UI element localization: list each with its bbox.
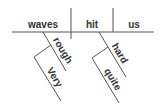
sentence-diagram: waves hit us rough Very hard quite <box>0 0 163 107</box>
rough-word: rough <box>51 35 75 65</box>
object-word: us <box>128 19 140 30</box>
quite-word: quite <box>102 66 124 93</box>
very-word: Very <box>45 65 66 89</box>
verb-word: hit <box>86 19 99 30</box>
subject-word: waves <box>27 19 58 30</box>
hard-word: hard <box>110 41 131 65</box>
